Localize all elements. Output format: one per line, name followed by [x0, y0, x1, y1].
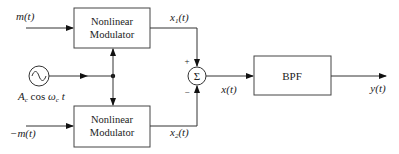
balanced-modulator-diagram: m(t) Nonlinear Modulator Nonlinear Modul… [0, 0, 399, 154]
x2-label: x2(t) [169, 126, 189, 140]
top-nonlinear-modulator: Nonlinear Modulator [74, 8, 150, 48]
summing-junction: Σ [188, 67, 206, 85]
bpf-block: BPF [254, 56, 331, 95]
input-label-m: m(t) [16, 10, 35, 23]
minus-sign: − [184, 87, 189, 97]
y-label: y(t) [369, 82, 386, 95]
input-label-neg-m: −m(t) [10, 127, 36, 140]
x1-label: x1(t) [169, 11, 189, 25]
bottom-nonlinear-modulator: Nonlinear Modulator [74, 106, 150, 147]
bottom-modulator-line1: Nonlinear [91, 114, 133, 125]
carrier-arrowhead [80, 73, 88, 79]
top-modulator-line2: Modulator [90, 29, 135, 40]
bottom-modulator-line2: Modulator [90, 127, 135, 138]
x1-arrow [150, 28, 197, 66]
oscillator-source-icon [29, 66, 49, 86]
bpf-label: BPF [282, 70, 302, 82]
sigma-icon: Σ [194, 70, 200, 82]
carrier-label: Ac cos ωc t [17, 90, 66, 104]
plus-sign: + [184, 56, 189, 66]
x2-arrow [150, 86, 197, 126]
x-label: x(t) [220, 83, 237, 96]
top-modulator-line1: Nonlinear [91, 16, 133, 27]
